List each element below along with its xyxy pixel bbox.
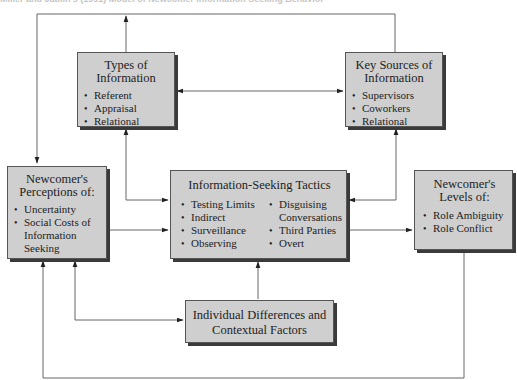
box-title: Newcomer's Levels of: [423, 178, 506, 204]
list-item: Observing [181, 237, 261, 250]
box-title: Types of Information [84, 59, 168, 85]
box-title: Individual Differences and Contextual Fa… [190, 309, 329, 337]
box-title: Key Sources of Information [352, 59, 436, 85]
perceptions-list: Uncertainty Social Costs of Information … [14, 203, 100, 255]
list-item: Third Parties [269, 224, 345, 237]
types-tactics-link [126, 129, 168, 200]
tactics-list-left: Testing Limits Indirect Surveillance Obs… [181, 198, 261, 250]
list-item: Relational [84, 115, 168, 128]
list-item: Overt [269, 237, 345, 250]
key-sources-box: Key Sources of Information Supervisors C… [345, 52, 443, 127]
list-item: Supervisors [352, 89, 436, 102]
list-item: Testing Limits [181, 198, 261, 211]
newcomer-levels-box: Newcomer's Levels of: Role Ambiguity Rol… [414, 170, 513, 250]
list-item: Social Costs of Information Seeking [14, 216, 96, 255]
newcomer-perceptions-box: Newcomer's Perceptions of: Uncertainty S… [7, 166, 107, 259]
types-of-information-box: Types of Information Referent Appraisal … [77, 52, 175, 127]
types-list: Referent Appraisal Relational [84, 89, 168, 128]
levels-list: Role Ambiguity Role Conflict [423, 209, 506, 235]
list-item: Disguising Conversations [269, 198, 345, 224]
list-item: Coworkers [352, 102, 436, 115]
list-item: Surveillance [181, 224, 261, 237]
sources-tactics-link [349, 129, 396, 200]
tactics-list-right: Disguising Conversations Third Parties O… [269, 198, 345, 250]
list-item: Referent [84, 89, 168, 102]
box-title: Newcomer's Perceptions of: [14, 173, 100, 199]
list-item: Relational [352, 115, 436, 128]
list-item: Indirect [181, 211, 261, 224]
list-item: Appraisal [84, 102, 168, 115]
individual-perceptions-link [75, 261, 183, 320]
box-title: Information-Seeking Tactics [181, 179, 338, 192]
list-item: Role Ambiguity [423, 209, 506, 222]
list-item: Role Conflict [423, 222, 506, 235]
individual-differences-box: Individual Differences and Contextual Fa… [185, 300, 334, 343]
information-seeking-tactics-box: Information-Seeking Tactics Testing Limi… [170, 170, 347, 259]
sources-list: Supervisors Coworkers Relational [352, 89, 436, 128]
list-item: Uncertainty [14, 203, 100, 216]
